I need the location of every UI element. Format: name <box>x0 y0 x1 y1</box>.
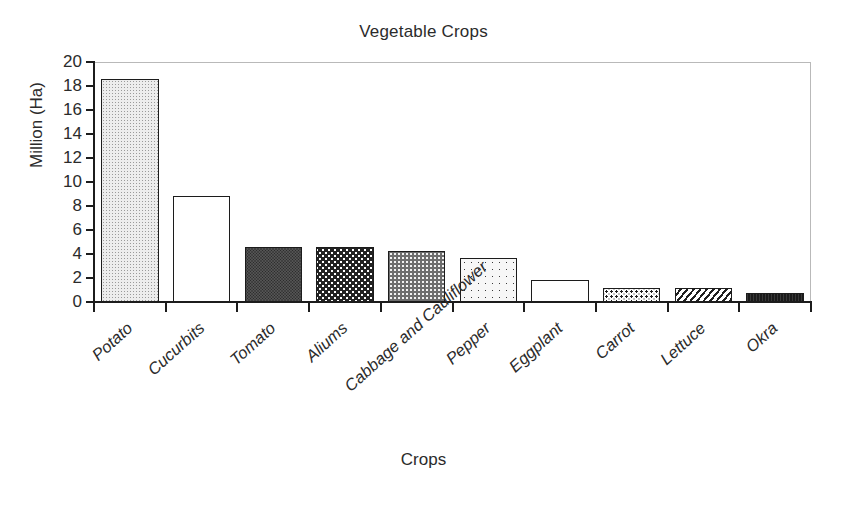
x-axis-tick-label: Lettuce <box>627 318 710 395</box>
x-axis-tick-labels: PotatoCucurbitsTomatoAliumsCabbage and C… <box>0 0 847 511</box>
x-axis-tick-label: Okra <box>699 318 782 395</box>
chart-figure: Vegetable Crops Million (Ha) 02468101214… <box>0 0 847 511</box>
x-axis-tick-label: Potato <box>54 318 137 395</box>
x-axis-tick-label: Cabbage and Cauliflower <box>340 318 423 395</box>
x-axis-tick-label: Aliums <box>269 318 352 395</box>
x-axis-title: Crops <box>0 450 847 470</box>
x-axis-tick-label: Eggplant <box>484 318 567 395</box>
x-axis-tick-label: Cucurbits <box>125 318 208 395</box>
x-axis-tick-label: Tomato <box>197 318 280 395</box>
x-axis-tick-label: Carrot <box>556 318 639 395</box>
